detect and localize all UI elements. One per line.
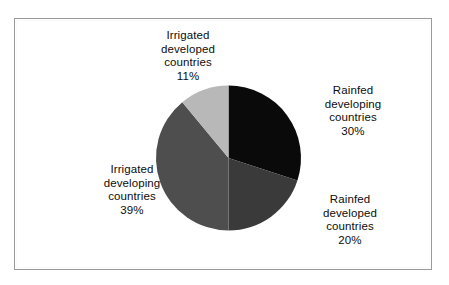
pie-label-percent: 30% (299, 125, 407, 139)
pie-label-line-1: Irrigated (166, 29, 209, 41)
pie-label-rainfed-developed: Rainfed developed countries 20% (296, 193, 404, 247)
pie-label-rainfed-developing: Rainfed developing countries 30% (299, 84, 407, 138)
pie-label-percent: 20% (296, 234, 404, 248)
pie-label-line-2: developed (323, 207, 377, 219)
pie-label-line-2: developed (161, 43, 215, 55)
pie-label-irrigated-developed: Irrigated developed countries 11% (136, 29, 240, 83)
pie-label-percent: 11% (136, 70, 240, 84)
pie-label-line-1: Rainfed (333, 84, 373, 96)
pie-label-line-2: developing (325, 98, 382, 110)
pie-chart-figure: Irrigated developed countries 11% Rainfe… (0, 0, 449, 285)
pie-label-line-3: countries (326, 220, 374, 232)
pie-label-percent: 39% (75, 204, 189, 218)
pie-label-line-1: Rainfed (330, 193, 370, 205)
pie-label-line-3: countries (108, 190, 156, 202)
pie-label-line-2: developing (104, 177, 161, 189)
pie-label-line-1: Irrigated (110, 163, 153, 175)
pie-label-irrigated-developing: Irrigated developing countries 39% (75, 163, 189, 217)
pie-label-line-3: countries (164, 56, 212, 68)
pie-label-line-3: countries (329, 111, 377, 123)
